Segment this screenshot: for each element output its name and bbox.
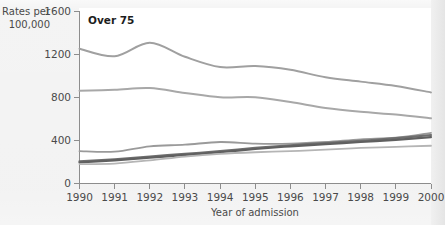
- x-tick-label: 1999: [382, 191, 409, 203]
- y-tick-label: 1200: [44, 48, 71, 60]
- x-tick-label: 1993: [172, 191, 199, 203]
- line-chart: Rates per 100,000 040080012001600 199019…: [0, 0, 445, 225]
- y-axis-label-line2: 100,000: [9, 19, 50, 30]
- series-line-series-2: [80, 88, 432, 118]
- x-tick-label: 1997: [312, 191, 339, 203]
- series-line-series-1: [80, 43, 432, 93]
- x-tick-label: 1994: [207, 191, 234, 203]
- y-tick-label: 0: [64, 177, 71, 189]
- series-group: [80, 43, 432, 164]
- x-tick-label: 1992: [136, 191, 163, 203]
- y-axis-ticks: 040080012001600: [44, 5, 79, 190]
- y-tick-label: 800: [51, 91, 71, 103]
- x-tick-label: 2000: [418, 191, 445, 203]
- y-tick-label: 400: [51, 134, 71, 146]
- x-tick-label: 1990: [66, 191, 93, 203]
- x-axis-title: Year of admission: [210, 207, 299, 218]
- figure-container: Rates per 100,000 040080012001600 199019…: [0, 0, 445, 225]
- x-tick-label: 1998: [347, 191, 374, 203]
- x-axis-ticks: 1990199119921993199419951996199719981999…: [66, 184, 444, 204]
- panel-title: Over 75: [88, 14, 134, 26]
- x-tick-label: 1996: [277, 191, 304, 203]
- x-tick-label: 1995: [242, 191, 269, 203]
- y-tick-label: 1600: [44, 5, 71, 17]
- x-tick-label: 1991: [101, 191, 128, 203]
